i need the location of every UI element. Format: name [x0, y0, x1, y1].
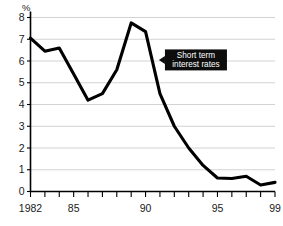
y-axis-tick-label: 4 — [19, 98, 25, 110]
x-axis-tick-label: 99 — [269, 202, 281, 214]
y-axis-tick-label: 0 — [19, 185, 25, 197]
y-axis-tick-label: 3 — [19, 120, 25, 132]
y-axis-tick-label: 2 — [19, 142, 25, 154]
callout-text-line-1: Short term — [177, 51, 215, 60]
y-axis-tick-label: 5 — [19, 76, 25, 88]
chart-container: 876543210 198285909599 % Short terminter… — [0, 0, 283, 226]
annotation-callout: Short terminterest rates — [159, 49, 227, 70]
x-axis-tick-label: 85 — [68, 202, 80, 214]
x-axis-tick-label: 95 — [212, 202, 224, 214]
y-axis-tick-label: 7 — [19, 33, 25, 45]
y-axis-tick-label: 1 — [19, 163, 25, 175]
y-axis-tick-label: 6 — [19, 55, 25, 67]
line-chart: 876543210 198285909599 % Short terminter… — [0, 0, 283, 226]
y-axis-tick-labels: 876543210 — [19, 11, 25, 197]
callout-text-line-2: interest rates — [172, 60, 219, 69]
y-axis-unit-label: % — [22, 2, 31, 13]
y-axis-tick-label: 8 — [19, 11, 25, 23]
x-axis-tick-label: 90 — [140, 202, 152, 214]
x-axis-tick-label: 1982 — [19, 202, 43, 214]
